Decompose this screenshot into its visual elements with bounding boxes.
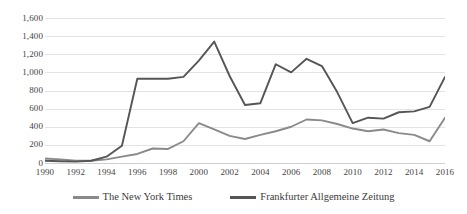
x-axis-tick-label: 1996 xyxy=(128,166,146,178)
chart-legend: The New York Times Frankfurter Allgemein… xyxy=(0,188,467,206)
x-axis-line xyxy=(45,163,445,164)
x-axis-tick-label: 2010 xyxy=(343,166,361,178)
x-axis-tick-label: 2014 xyxy=(405,166,423,178)
legend-label: The New York Times xyxy=(103,191,193,203)
y-axis-tick-label: 400 xyxy=(1,122,43,131)
x-axis: 1990199219941996199820002002200420062008… xyxy=(45,166,445,180)
y-axis: 02004006008001,0001,2001,4001,600 xyxy=(0,18,43,163)
x-axis-tick-label: 1994 xyxy=(97,166,115,178)
line-swatch-icon xyxy=(73,196,99,199)
line-swatch-icon xyxy=(230,196,256,199)
series-line-nyt xyxy=(45,118,445,161)
x-axis-tick-label: 2002 xyxy=(220,166,238,178)
legend-item-faz[interactable]: Frankfurter Allgemeine Zeitung xyxy=(230,191,394,203)
legend-item-nyt[interactable]: The New York Times xyxy=(73,191,193,203)
x-axis-tick-label: 1998 xyxy=(159,166,177,178)
y-axis-tick-label: 1,200 xyxy=(1,50,43,59)
y-axis-tick-label: 600 xyxy=(1,104,43,113)
x-axis-tick-label: 1990 xyxy=(36,166,54,178)
x-axis-tick-label: 2006 xyxy=(282,166,300,178)
x-axis-tick-label: 2004 xyxy=(251,166,269,178)
legend-label: Frankfurter Allgemeine Zeitung xyxy=(260,191,394,203)
y-axis-tick-label: 1,600 xyxy=(1,14,43,23)
series-line-faz xyxy=(45,42,445,162)
series-layer xyxy=(45,18,445,163)
line-chart: 02004006008001,0001,2001,4001,600 199019… xyxy=(0,0,467,214)
x-axis-tick-label: 1992 xyxy=(67,166,85,178)
x-axis-tick-label: 2000 xyxy=(190,166,208,178)
y-axis-tick-label: 1,000 xyxy=(1,68,43,77)
y-axis-tick-label: 200 xyxy=(1,140,43,149)
x-axis-tick-label: 2016 xyxy=(436,166,454,178)
y-axis-tick-label: 1,400 xyxy=(1,32,43,41)
x-axis-tick-label: 2012 xyxy=(374,166,392,178)
y-axis-tick-label: 800 xyxy=(1,86,43,95)
x-axis-tick-label: 2008 xyxy=(313,166,331,178)
